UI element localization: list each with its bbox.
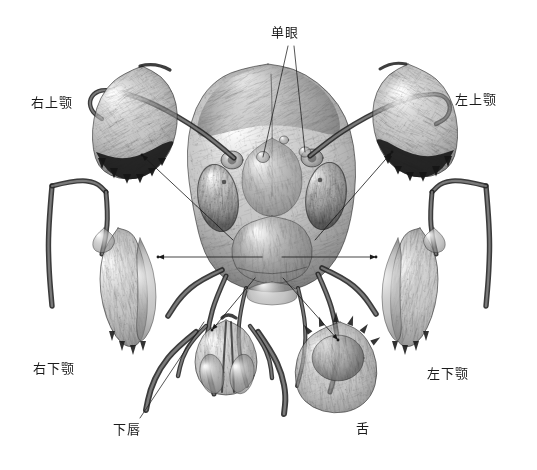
label-tongue: 舌 (356, 422, 370, 435)
label-left-mandible: 左上颚 (455, 93, 497, 106)
insect-mouthparts-illustration (0, 0, 537, 470)
label-ocellus: 单眼 (271, 26, 299, 39)
label-labium: 下唇 (113, 423, 141, 436)
illustration-plate: 单眼 右上颚 左上颚 右下颚 左下颚 下唇 舌 (0, 0, 537, 470)
label-left-maxilla: 左下颚 (427, 367, 469, 380)
label-right-maxilla: 右下颚 (33, 362, 75, 375)
label-right-mandible: 右上颚 (31, 96, 73, 109)
